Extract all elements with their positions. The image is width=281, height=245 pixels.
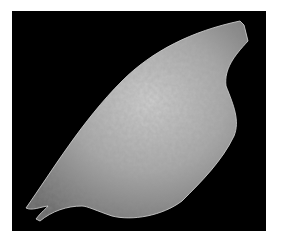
bone-fragment: [12, 11, 266, 231]
specimen-photo: [12, 11, 266, 231]
